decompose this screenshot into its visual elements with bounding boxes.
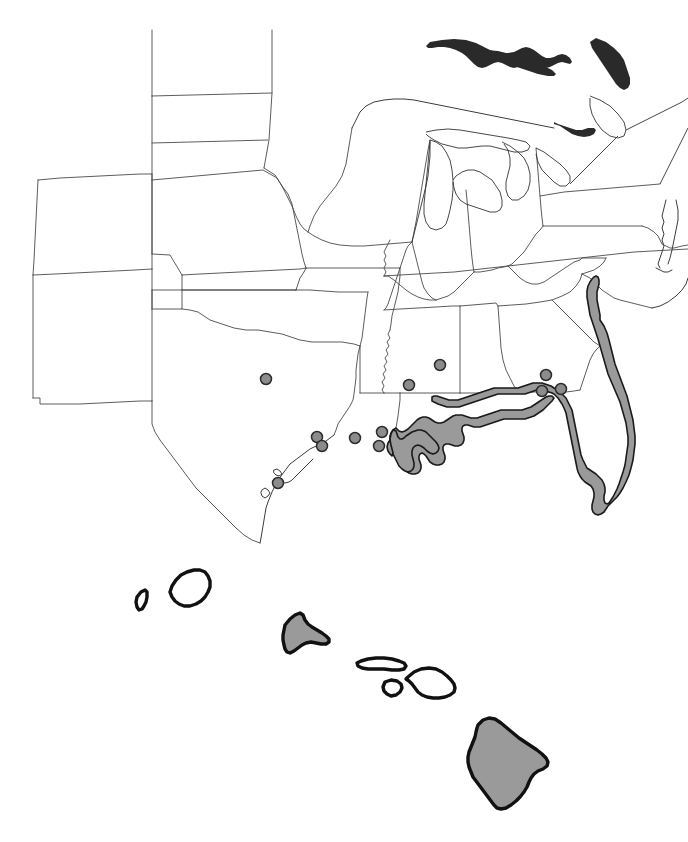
- coast-chesapeake: [658, 200, 666, 268]
- michigan-upper-peninsula: [426, 129, 530, 152]
- border-mn-outline: [264, 168, 308, 232]
- border-ok-panhandle: [152, 275, 182, 290]
- point-southeast-georgia-southeast[interactable]: [556, 384, 567, 395]
- border-tn-ky: [384, 249, 688, 276]
- island-oahu: [283, 613, 329, 653]
- point-louisiana-mississippi-border[interactable]: [404, 380, 415, 391]
- lake-erie-fringe: [554, 122, 596, 137]
- coast-virginia-detail: [656, 268, 672, 272]
- island-molokai: [357, 658, 406, 670]
- lake-ontario-outline: [590, 96, 626, 138]
- border-al-ga: [498, 306, 518, 392]
- border-tx-mexico: [152, 401, 260, 543]
- river-mississippi-upper: [384, 268, 400, 310]
- border-nd-sd-top: [152, 93, 272, 96]
- border-mo-east: [390, 268, 400, 330]
- ny-state-west-line: [570, 136, 618, 184]
- point-southeast-georgia-southwest[interactable]: [537, 386, 548, 397]
- border-pa-md-east: [642, 226, 662, 244]
- border-tn-nc: [498, 274, 582, 306]
- point-southeast-georgia-north[interactable]: [541, 370, 552, 381]
- border-il-ky-river: [384, 276, 436, 300]
- ny-north-outline: [626, 98, 688, 130]
- border-ok-mo: [296, 290, 368, 292]
- island-niihau: [136, 590, 147, 610]
- distribution-map-figure: [0, 0, 688, 842]
- border-ky-va: [582, 258, 606, 274]
- border-ar-ms-river: [382, 330, 390, 393]
- border-ok-ar: [360, 292, 368, 346]
- border-wi-il: [308, 232, 412, 246]
- michigan-lower-peninsula: [453, 170, 502, 212]
- border-sd-ne-line: [152, 140, 268, 143]
- border-ne-co: [152, 254, 182, 275]
- coast-texas-bay-detail: [261, 488, 270, 498]
- border-ok-panhandle-south: [152, 290, 182, 309]
- coast-north-carolina: [652, 278, 688, 308]
- point-texas-upper-coast-b[interactable]: [317, 441, 328, 452]
- border-wi-mi-lake: [412, 140, 430, 242]
- border-oh-wv: [508, 226, 543, 266]
- border-co-south: [33, 269, 152, 275]
- border-al-tn: [460, 303, 498, 306]
- border-ks-east: [296, 268, 306, 290]
- border-co-west: [33, 180, 38, 275]
- border-pa-ny: [540, 184, 660, 196]
- island-kauai: [170, 570, 210, 606]
- border-nm-south: [33, 398, 152, 404]
- point-louisiana-southeast-coast[interactable]: [374, 441, 385, 452]
- coast-delmarva: [668, 200, 678, 264]
- border-ms-tn: [384, 306, 460, 310]
- great-lakes-layer: [412, 38, 688, 242]
- border-ne-south: [182, 268, 306, 275]
- lake-ontario-fringe: [590, 38, 630, 90]
- border-mn-wi: [308, 128, 352, 232]
- coast-texas-bay-detail-2: [274, 469, 282, 476]
- point-central-mississippi[interactable]: [435, 360, 446, 371]
- border-ky-mo-river: [384, 240, 390, 276]
- island-hawaii-big-island: [468, 718, 548, 809]
- point-louisiana-southwest-coast[interactable]: [350, 433, 361, 444]
- hawaii-inset-layer: [136, 570, 548, 809]
- border-co-north: [38, 174, 152, 180]
- border-wy-sd: [152, 170, 282, 186]
- point-louisiana-south-central-coast[interactable]: [377, 427, 388, 438]
- lake-michigan-outline: [424, 140, 453, 230]
- border-ok-tx-red-river: [182, 309, 360, 346]
- ny-east-line: [660, 128, 688, 184]
- border-in-ky-river: [436, 272, 474, 300]
- shaded-range-layer: [387, 276, 635, 515]
- map-canvas: [0, 0, 688, 842]
- border-md-va: [662, 244, 688, 248]
- lake-erie-outline: [536, 148, 570, 186]
- border-ga-fl-east-leg: [580, 346, 600, 390]
- border-la-ms: [396, 393, 400, 428]
- island-maui: [406, 668, 455, 698]
- point-east-texas-inland[interactable]: [261, 374, 272, 385]
- border-il-in: [412, 242, 436, 300]
- border-in-oh: [466, 190, 474, 272]
- coast-lake-superior-south: [352, 99, 554, 128]
- island-lanai: [383, 680, 402, 696]
- border-ia-il: [400, 242, 412, 268]
- border-tx-east-la: [334, 346, 360, 435]
- border-nd-mn: [264, 30, 272, 168]
- coast-texas-barrier: [278, 459, 313, 483]
- point-texas-central-coast[interactable]: [273, 478, 284, 489]
- range-florida-peninsula: [432, 276, 635, 515]
